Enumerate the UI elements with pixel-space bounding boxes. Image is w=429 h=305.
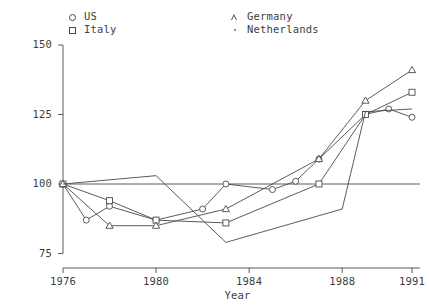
data-point-triangle (222, 205, 229, 211)
y-tick-label: 125 (18, 109, 52, 120)
y-tick-label: 100 (18, 178, 52, 189)
chart-root: US Italy Germany Netherlands 75100125150… (0, 0, 429, 305)
series-line (63, 92, 412, 223)
chart-canvas (0, 0, 429, 305)
series-netherlands (63, 109, 412, 242)
data-point-circle (293, 178, 299, 184)
series-line (63, 70, 412, 226)
x-tick-label: 1991 (390, 276, 429, 287)
data-point-circle (269, 187, 275, 193)
data-point-triangle (408, 66, 415, 72)
data-point-circle (107, 203, 113, 209)
x-tick-label: 1980 (134, 276, 178, 287)
x-tick-label: 1984 (227, 276, 271, 287)
x-tick-label: 1988 (320, 276, 364, 287)
plot-area (0, 0, 429, 305)
data-point-triangle (362, 97, 369, 103)
data-point-square (409, 89, 415, 95)
series-italy (60, 89, 415, 226)
series-line (63, 109, 412, 242)
data-point-circle (386, 106, 392, 112)
data-point-square (107, 198, 113, 204)
x-axis-title: Year (208, 289, 268, 301)
data-point-circle (409, 114, 415, 120)
data-point-circle (200, 206, 206, 212)
data-point-square (316, 181, 322, 187)
series-us (60, 106, 415, 223)
y-tick-label: 150 (18, 39, 52, 50)
data-point-square (223, 220, 229, 226)
x-tick-label: 1976 (41, 276, 85, 287)
data-point-circle (83, 217, 89, 223)
data-point-circle (223, 181, 229, 187)
y-tick-label: 75 (18, 248, 52, 259)
